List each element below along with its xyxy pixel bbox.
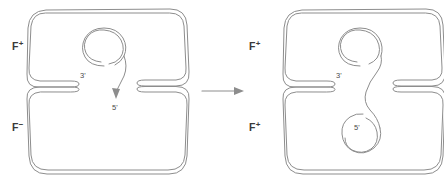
recipient-label-after: F+	[249, 120, 261, 133]
recipient-cell-outline-after	[283, 87, 444, 175]
five-prime-label-before: 5'	[112, 103, 118, 112]
conjugation-diagram: 3' 5' F+ F− 3' 5' F+	[0, 0, 444, 183]
donor-cell-outline-before	[27, 9, 189, 87]
recipient-plasmid-inner-after	[345, 118, 377, 152]
five-prime-arrowhead-before	[112, 88, 120, 99]
recipient-cell-outline-before	[27, 87, 189, 175]
transferred-strand-after	[365, 56, 381, 128]
recipient-label-sup-before: −	[19, 120, 24, 129]
donor-label-before: F+	[12, 39, 24, 52]
plasmid-circle-outer-before	[83, 28, 126, 66]
right-arrow-icon	[202, 87, 244, 95]
panel-before: 3' 5' F+ F−	[12, 9, 189, 174]
three-prime-label-before: 3'	[80, 71, 86, 80]
recipient-label-sup-after: +	[256, 120, 261, 129]
panel-after: 3' 5' F+ F+	[249, 9, 444, 174]
plasmid-circle-inner-before	[84, 30, 123, 64]
donor-label-sup-after: +	[256, 39, 261, 48]
five-prime-label-after: 5'	[354, 123, 360, 132]
three-prime-label-after: 3'	[336, 71, 342, 80]
plasmid-circle-inner-after	[340, 30, 379, 64]
donor-label-sup-before: +	[19, 39, 24, 48]
donor-label-after: F+	[249, 39, 261, 52]
recipient-label-before: F−	[12, 120, 24, 133]
plasmid-transfer-tail-before	[116, 56, 126, 92]
donor-cell-outline-after	[283, 9, 444, 87]
